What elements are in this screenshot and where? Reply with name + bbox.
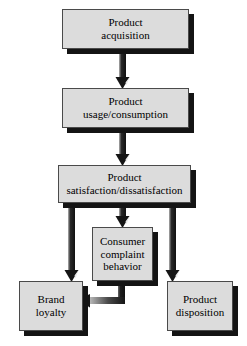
node-consumer-complaint-behavior[interactable]: Consumer complaint behavior — [92, 227, 153, 281]
node-product-disposition[interactable]: Product disposition — [167, 281, 233, 331]
node-label-line: complaint — [101, 248, 145, 261]
node-product-satisfaction-dissatisfaction[interactable]: Product satisfaction/dissatisfaction — [58, 165, 191, 203]
node-label-line: loyalty — [36, 306, 67, 319]
node-label-line: usage/consumption — [83, 108, 168, 121]
node-product-acquisition[interactable]: Product acquisition — [62, 9, 189, 49]
node-label-line: disposition — [176, 306, 224, 319]
node-label-line: Product — [107, 171, 141, 184]
node-label-line: Brand — [38, 293, 65, 306]
node-brand-loyalty[interactable]: Brand loyalty — [19, 281, 83, 331]
node-product-usage-consumption[interactable]: Product usage/consumption — [62, 88, 189, 128]
node-label-line: Product — [108, 95, 142, 108]
node-label-line: Product — [183, 293, 217, 306]
node-label-line: Consumer — [100, 235, 145, 248]
node-label-line: Product — [108, 16, 142, 29]
flowchart-diagram: Product acquisition Product usage/consum… — [0, 0, 247, 346]
node-label-line: behavior — [103, 260, 141, 273]
node-label-line: acquisition — [101, 29, 149, 42]
connector-satisfaction-to-brand-loyalty — [61, 200, 83, 286]
node-label-line: satisfaction/dissatisfaction — [66, 184, 182, 197]
connector-satisfaction-to-disposition — [162, 200, 184, 286]
